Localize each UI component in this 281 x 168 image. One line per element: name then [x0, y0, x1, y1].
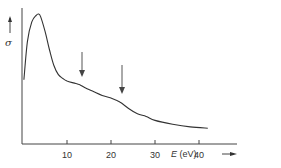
x-tick-label: 10 [62, 150, 72, 160]
x-axis-unit: (eV) [180, 149, 197, 159]
arrow-icon-13ev [79, 52, 85, 77]
arrow-icon-22ev [119, 65, 125, 94]
x-tick-label: 30 [150, 150, 160, 160]
x-ticks [67, 140, 199, 144]
data-curve [24, 14, 208, 128]
x-tick-label: 20 [106, 150, 116, 160]
x-axis-label: E (eV) [171, 149, 197, 159]
y-axis-arrow-icon [8, 16, 12, 33]
y-axis-label: σ [5, 37, 12, 48]
x-axis-arrow-icon [222, 152, 237, 156]
chart-canvas [0, 0, 281, 168]
x-axis-variable: E [171, 149, 177, 159]
